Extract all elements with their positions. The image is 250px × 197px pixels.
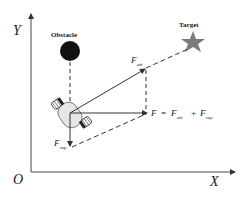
mobile-robot-icon xyxy=(51,97,93,131)
y-axis-label: Y xyxy=(13,23,23,38)
svg-text:att: att xyxy=(137,62,143,67)
svg-text:+: + xyxy=(191,108,196,118)
obstacle-label: Obstacle xyxy=(51,31,77,39)
target-star-icon xyxy=(181,31,205,52)
repulsive-force-label: F rep xyxy=(53,138,67,150)
attractive-force-arrow xyxy=(70,69,145,113)
x-axis-label: X xyxy=(209,174,219,189)
resultant-force-equation: F = F att + F rep xyxy=(150,108,213,120)
potential-field-diagram: Y O X Obstacle Target xyxy=(0,0,250,197)
svg-text:F: F xyxy=(53,138,60,148)
origin-label: O xyxy=(13,172,23,187)
svg-text:F: F xyxy=(150,108,157,118)
target-dashed-line xyxy=(146,49,188,68)
svg-text:F: F xyxy=(199,108,206,118)
obstacle-icon xyxy=(60,41,80,61)
svg-text:F: F xyxy=(130,55,137,65)
attractive-force-label: F att xyxy=(130,55,143,67)
svg-text:F: F xyxy=(170,108,177,118)
svg-text:att: att xyxy=(177,115,183,120)
svg-text:=: = xyxy=(161,108,166,118)
svg-text:rep: rep xyxy=(60,145,67,150)
target-label: Target xyxy=(179,21,199,29)
svg-text:rep: rep xyxy=(206,115,213,120)
